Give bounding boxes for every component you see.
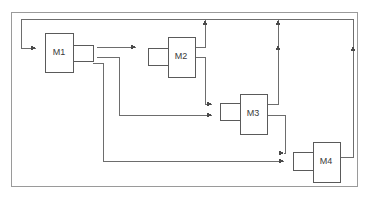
block-m4[interactable]: M4 [294, 143, 341, 183]
connector-line [195, 57, 212, 104]
arrowhead [279, 159, 284, 163]
arrowhead [351, 46, 355, 51]
arrowhead [207, 102, 212, 106]
block-m2[interactable]: M2 [149, 38, 196, 78]
connector-line [267, 20, 278, 104]
arrowhead [276, 45, 280, 50]
block-port-m3[interactable] [221, 104, 241, 121]
block-label-m1: M1 [53, 47, 66, 57]
connector-m4-out-up-to-bus [340, 19, 355, 157]
block-label-m2: M2 [175, 51, 188, 61]
connector-m2-out-down-to-m3 [195, 57, 212, 106]
block-label-m3: M3 [247, 108, 260, 118]
connector-m1-to-m2 [97, 45, 136, 49]
connector-m2-out-up-to-bus [195, 20, 207, 47]
arrowhead [31, 46, 36, 50]
arrowhead [131, 45, 136, 49]
block-layer: M1M2M3M4 [46, 34, 341, 183]
connector-line [340, 19, 353, 157]
block-label-m4: M4 [320, 156, 333, 166]
arrowhead [203, 20, 207, 25]
block-m1[interactable]: M1 [46, 34, 94, 73]
block-diagram-svg: M1M2M3M4 [0, 0, 368, 198]
block-port-m2[interactable] [149, 49, 169, 66]
arrowhead [279, 151, 284, 155]
diagram-canvas: M1M2M3M4 [0, 0, 368, 198]
connector-m3-out-down-to-m4 [267, 115, 285, 155]
block-port-m4[interactable] [294, 153, 314, 171]
block-port-m1[interactable] [74, 46, 94, 62]
connector-line [267, 115, 285, 153]
arrowhead [207, 113, 212, 117]
connector-m3-out-up-to-bus [267, 20, 280, 104]
arrowhead [276, 20, 280, 25]
block-m3[interactable]: M3 [221, 95, 268, 135]
